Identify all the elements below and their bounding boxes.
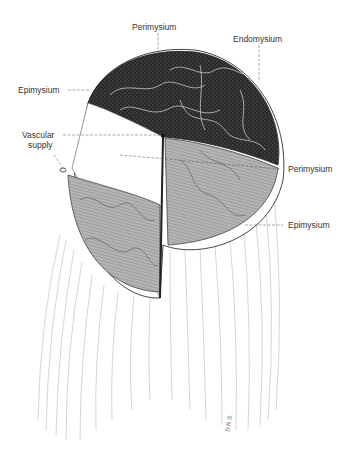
label-epimysium-right: Epimysium: [288, 220, 330, 230]
vessel-cross-section: [161, 134, 165, 138]
label-endomysium: Endomysium: [233, 34, 282, 44]
label-epimysium-left: Epimysium: [18, 85, 60, 95]
label-perimysium-top: Perimysium: [132, 22, 176, 32]
label-vascular-supply-line2: supply: [28, 140, 53, 150]
label-perimysium-right: Perimysium: [288, 164, 332, 174]
label-vascular-supply-line1: Vascular: [22, 130, 54, 140]
muscle-diagram: Perimysium Endomysium Epimysium Vascular…: [0, 0, 355, 459]
